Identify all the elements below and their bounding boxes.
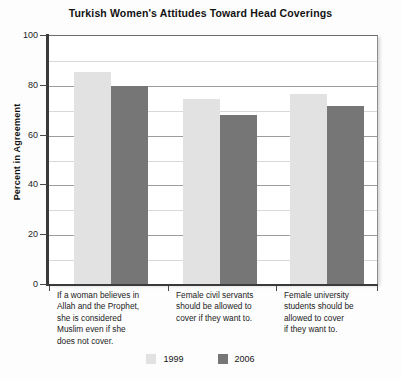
category-label-line: Female civil servants bbox=[176, 290, 280, 301]
category-label-line: she is considered bbox=[57, 313, 169, 324]
chart-legend: 19992006 bbox=[0, 354, 401, 364]
y-tick-label: 60 bbox=[2, 130, 38, 140]
x-axis-line bbox=[46, 284, 378, 286]
y-tick-label: 40 bbox=[2, 179, 38, 189]
bar-1999-group3 bbox=[290, 94, 327, 284]
legend-entry-1999[interactable]: 1999 bbox=[146, 354, 183, 364]
y-axis-tick-labels: 020406080100 bbox=[0, 0, 38, 380]
y-tick-mark bbox=[40, 184, 47, 185]
category-label-line: students should be bbox=[284, 301, 382, 312]
category-label-2: Female civil servantsshould be allowed t… bbox=[176, 290, 280, 324]
gridline-minor bbox=[49, 61, 377, 62]
category-label-line: If a woman believes in bbox=[57, 290, 169, 301]
x-tick-mark bbox=[49, 286, 50, 291]
y-tick-mark bbox=[40, 284, 47, 285]
category-label-3: Female universitystudents should beallow… bbox=[284, 290, 382, 336]
category-label-line: allowed to cover bbox=[284, 313, 382, 324]
y-tick-mark bbox=[40, 135, 47, 136]
y-tick-label: 0 bbox=[2, 279, 38, 289]
y-tick-label: 80 bbox=[2, 80, 38, 90]
category-label-line: Female university bbox=[284, 290, 382, 301]
legend-label: 2006 bbox=[235, 354, 255, 364]
y-tick-mark bbox=[40, 234, 47, 235]
category-label-line: Allah and the Prophet, bbox=[57, 301, 169, 312]
bar-1999-group1 bbox=[74, 72, 111, 284]
chart-title: Turkish Women's Attitudes Toward Head Co… bbox=[0, 7, 401, 19]
y-tick-label: 20 bbox=[2, 229, 38, 239]
category-label-1: If a woman believes inAllah and the Prop… bbox=[57, 290, 169, 347]
bar-2006-group2 bbox=[220, 115, 257, 284]
category-label-line: cover if they want to. bbox=[176, 313, 280, 324]
y-tick-mark bbox=[40, 85, 47, 86]
legend-entry-2006[interactable]: 2006 bbox=[218, 354, 255, 364]
category-label-line: Muslim even if she bbox=[57, 324, 169, 335]
legend-swatch-icon bbox=[218, 354, 228, 364]
category-label-line: should be allowed to bbox=[176, 301, 280, 312]
legend-label: 1999 bbox=[163, 354, 183, 364]
plot-inner bbox=[49, 36, 377, 284]
category-label-line: does not cover. bbox=[57, 336, 169, 347]
y-tick-mark bbox=[40, 35, 47, 36]
bar-2006-group1 bbox=[111, 86, 148, 284]
y-tick-label: 100 bbox=[2, 30, 38, 40]
y-axis-line bbox=[46, 34, 49, 285]
plot-area bbox=[49, 35, 378, 284]
legend-swatch-icon bbox=[146, 354, 156, 364]
bar-1999-group2 bbox=[183, 99, 220, 285]
chart-figure: Turkish Women's Attitudes Toward Head Co… bbox=[0, 0, 401, 380]
category-label-line: if they want to. bbox=[284, 324, 382, 335]
bar-2006-group3 bbox=[327, 106, 364, 284]
